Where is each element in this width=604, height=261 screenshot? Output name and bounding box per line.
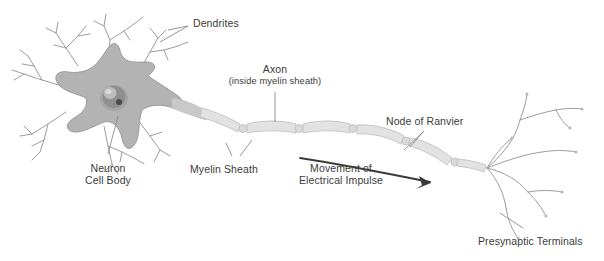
myelin-segment [457, 159, 486, 172]
leader-myelin-2 [240, 140, 252, 156]
label-presynaptic-terminals: Presynaptic Terminals [478, 236, 583, 248]
nucleolus [116, 99, 122, 105]
myelin-segment [247, 121, 296, 133]
myelin-segment [357, 125, 404, 144]
label-neuron-cell-body-line1: Neuron [90, 162, 125, 174]
node-of-ranvier [349, 125, 357, 133]
label-impulse-movement: Movement of Electrical Impulse [285, 163, 397, 186]
leader-myelin-1 [226, 143, 232, 156]
node-of-ranvier [295, 125, 303, 133]
nucleus [100, 85, 128, 111]
label-axon-title: Axon [263, 63, 287, 75]
label-dendrites: Dendrites [193, 18, 239, 30]
myelin-segment [303, 121, 350, 133]
diagram-canvas [0, 0, 604, 261]
node-of-ranvier [239, 125, 247, 133]
label-neuron-cell-body-line2: Cell Body [58, 175, 158, 187]
neuron-diagram: Dendrites Axon (inside myelin sheath) No… [0, 0, 604, 261]
node-of-ranvier [402, 137, 410, 145]
terminal-bulbs [510, 92, 583, 239]
label-myelin-sheath: Myelin Sheath [190, 164, 258, 176]
label-axon-subtitle: (inside myelin sheath) [219, 76, 331, 88]
label-impulse-movement-line2: Electrical Impulse [285, 175, 397, 187]
label-node-of-ranvier: Node of Ranvier [386, 116, 463, 128]
myelin-segment [409, 138, 452, 165]
label-axon: Axon (inside myelin sheath) [219, 64, 331, 87]
label-neuron-cell-body: Neuron Cell Body [58, 163, 158, 186]
presynaptic-terminal-branches [487, 94, 582, 238]
label-impulse-movement-line1: Movement of [310, 162, 372, 174]
